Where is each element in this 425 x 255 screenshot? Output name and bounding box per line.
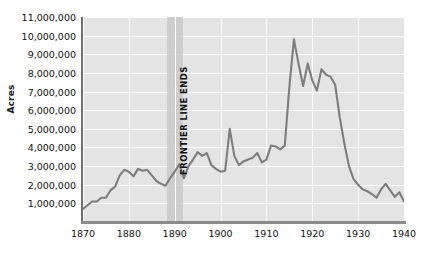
x-tick-label: 1940 xyxy=(392,228,416,239)
x-tick-label: 1910 xyxy=(254,228,278,239)
x-tick-label: 1890 xyxy=(163,228,187,239)
x-tick-label: 1920 xyxy=(300,228,324,239)
chart-container: Acres 11,000,00010,000,0009,000,0008,000… xyxy=(0,0,425,255)
x-tick-label: 1900 xyxy=(208,228,232,239)
x-axis-tick-labels: 18701880189019001910192019301940 xyxy=(0,0,425,255)
x-tick-label: 1880 xyxy=(117,228,141,239)
x-tick-label: 1870 xyxy=(71,228,95,239)
x-tick-label: 1930 xyxy=(346,228,370,239)
